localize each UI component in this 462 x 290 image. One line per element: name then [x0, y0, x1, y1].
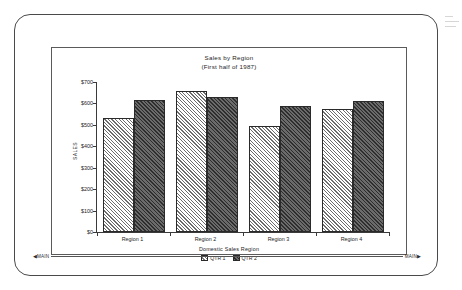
bar-qtr2 [134, 100, 165, 232]
status-right-caret: ▶ [417, 254, 421, 259]
y-axis-tick-label: $300 [81, 165, 93, 171]
bar-qtr2 [207, 97, 238, 232]
y-axis-tick-label: $100 [81, 208, 93, 214]
bar-group [249, 82, 311, 232]
status-right-label: MAIN [405, 254, 417, 259]
x-axis-category-labels: Region 1Region 2Region 3Region 4 [96, 236, 388, 242]
chart-subtitle: (First half of 1987) [52, 63, 406, 72]
margin-mark [445, 26, 456, 27]
monitor-bezel: Sales by Region (First half of 1987) SAL… [14, 14, 438, 276]
bar-group [176, 82, 238, 232]
bar-qtr1 [176, 91, 207, 232]
chart-frame: Sales by Region (First half of 1987) SAL… [51, 47, 407, 255]
x-axis-category-label: Region 4 [341, 236, 363, 242]
bar-groups [97, 82, 389, 232]
status-bar[interactable]: ◀ MAIN MAIN ▶ [33, 252, 421, 261]
bar-qtr2 [353, 101, 384, 232]
margin-marks [445, 16, 459, 27]
x-axis-tick [389, 232, 390, 236]
margin-mark [445, 16, 453, 17]
bar-qtr1 [249, 126, 280, 232]
bar-qtr1 [103, 118, 134, 232]
status-scroll-track[interactable] [51, 256, 402, 257]
bar-qtr1 [322, 109, 353, 232]
y-axis-tick-label: $700 [81, 79, 93, 85]
y-axis-tick-label: $400 [81, 143, 93, 149]
margin-mark [445, 21, 459, 22]
bar-qtr2 [280, 106, 311, 232]
x-axis-category-label: Region 2 [195, 236, 217, 242]
y-axis-label: SALES [72, 142, 78, 160]
chart-title: Sales by Region [52, 54, 406, 63]
y-axis-tick-label: $200 [81, 186, 93, 192]
x-axis-category-label: Region 3 [268, 236, 290, 242]
y-axis-tick-label: $600 [81, 100, 93, 106]
plot-area: $0$100$200$300$400$500$600$700 [96, 82, 389, 233]
y-axis-tick-label: $500 [81, 122, 93, 128]
bar-group [322, 82, 384, 232]
status-left-label: MAIN [37, 254, 49, 259]
x-axis-category-label: Region 1 [122, 236, 144, 242]
bar-group [103, 82, 165, 232]
y-axis-tick-label: $0 [87, 229, 93, 235]
title-block: Sales by Region (First half of 1987) [52, 54, 406, 72]
